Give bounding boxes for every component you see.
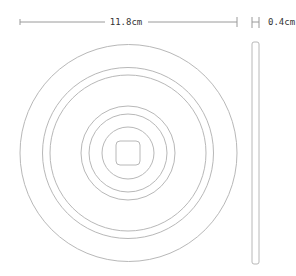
hub-middle-circle (89, 114, 167, 192)
thickness-label: 0.4cm (268, 17, 295, 27)
outer-rim-circle (20, 45, 237, 262)
width-dimension: 11.8cm (20, 17, 237, 27)
thickness-dimension: 0.4cm (252, 17, 295, 28)
groove-inner-circle (50, 75, 206, 231)
coaster-diagram: 11.8cm 0.4cm (0, 0, 296, 276)
center-square (116, 141, 140, 165)
width-label: 11.8cm (110, 17, 143, 27)
front-view (20, 45, 237, 262)
hub-inner-circle (102, 127, 154, 179)
hub-outer-circle (81, 106, 175, 200)
groove-outer-circle (43, 68, 214, 239)
side-view (252, 42, 259, 264)
